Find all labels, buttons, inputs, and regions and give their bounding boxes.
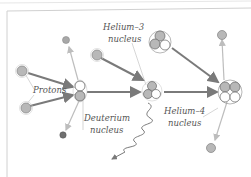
helium-3-label-line2: nucleus: [108, 34, 142, 44]
helium-3-nucleus-icon: [149, 31, 171, 53]
helium-4-nucleus-icon: [218, 80, 242, 104]
positron-icon: [60, 132, 66, 138]
released-proton-icon: [218, 31, 227, 40]
protons-label: Protons: [32, 85, 67, 95]
neutrino-icon: [63, 37, 70, 44]
helium-3-nucleus-icon: [142, 81, 162, 101]
proton-icon: [20, 102, 33, 115]
deuterium-label-line2: nucleus: [90, 125, 124, 135]
proton-chain-diagram: Protons Deuterium nucleus Helium–3 nucle…: [0, 0, 251, 177]
helium-4-label-line1: Helium–4: [163, 106, 205, 116]
proton-icon: [91, 49, 104, 62]
deuterium-nucleus-icon: [73, 80, 87, 102]
reaction-arrows: [28, 48, 218, 106]
helium-4-label-line2: nucleus: [168, 118, 202, 128]
released-proton-icon: [207, 144, 216, 153]
deuterium-label-line1: Deuterium: [83, 113, 130, 123]
proton-icon: [16, 65, 29, 78]
helium-3-label-line1: Helium–3: [102, 22, 144, 32]
diagram-frame: Protons Deuterium nucleus Helium–3 nucle…: [0, 0, 251, 177]
